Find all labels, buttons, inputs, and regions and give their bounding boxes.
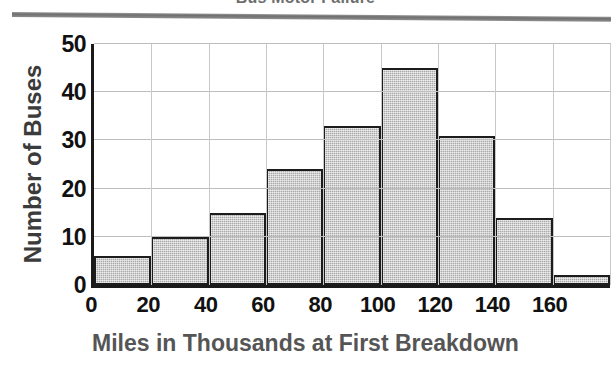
y-tick-label: 30 [42,127,86,154]
gridline-vertical [323,44,324,285]
gridline-vertical [495,44,496,285]
gridline-horizontal [94,236,610,237]
x-tick-label: 140 [475,292,510,318]
y-tick-label: 0 [42,272,86,299]
histogram-bar [151,237,208,285]
gridline-vertical [151,44,152,285]
y-tick-label: 10 [42,223,86,250]
x-tick-label: 160 [532,292,567,318]
histogram-bar [381,68,438,285]
gridline-vertical [381,44,382,285]
histogram-bar [209,213,266,285]
gridline-vertical [209,44,210,285]
gridline-vertical [266,44,267,285]
bar-series [94,44,610,285]
gridline-horizontal [94,91,610,92]
histogram-bar [495,218,552,285]
gridline-horizontal [94,43,610,44]
y-tick-label: 40 [42,79,86,106]
histogram-bar [438,136,495,285]
y-tick-label: 20 [42,175,86,202]
gridline-horizontal [94,139,610,140]
x-tick-label: 60 [251,292,274,318]
x-tick-label: 20 [137,292,160,318]
gridline-vertical [553,44,554,285]
y-tick-label: 50 [42,31,86,58]
x-axis-tick-labels: 020406080100120140160 [91,292,607,322]
title-divider-rule [12,12,611,22]
histogram-bar [553,275,610,285]
x-tick-label: 80 [309,292,332,318]
histogram-bar [94,256,151,285]
plot-area [91,44,610,288]
y-axis-title: Number of Buses [19,39,47,289]
x-tick-label: 100 [360,292,395,318]
x-tick-label: 0 [85,292,97,318]
x-tick-label: 120 [417,292,452,318]
chart-title: Bus Motor Failure [0,0,611,7]
histogram-bar [323,126,380,285]
gridline-horizontal [94,188,610,189]
x-axis-title: Miles in Thousands at First Breakdown [0,330,611,357]
x-tick-label: 40 [194,292,217,318]
gridline-vertical [438,44,439,285]
histogram-figure: Bus Motor Failure 01020304050 0204060801… [0,0,611,368]
